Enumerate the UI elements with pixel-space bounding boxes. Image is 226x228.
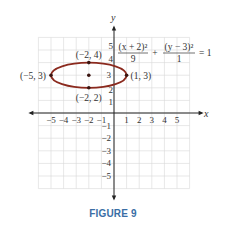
y-tick-label: −5 [101, 171, 111, 181]
x-tick-label: 2 [137, 115, 142, 125]
tick-labels: −5−4−3−2−11234554321−1−2−3−4−5 [46, 41, 180, 181]
y-tick-label: 3 [107, 70, 112, 80]
x-axis-arrow-left-icon [28, 111, 33, 115]
x-tick-label: −5 [46, 115, 56, 125]
y-axis-label: y [110, 12, 116, 23]
eq-plus: + [152, 48, 157, 58]
point-marker [87, 86, 91, 90]
eq-term1-denominator: 9 [131, 54, 136, 64]
y-tick-label: −1 [101, 121, 111, 131]
figure-caption: FIGURE 9 [0, 208, 226, 219]
eq-term2-denominator: 1 [177, 54, 182, 64]
point-label: (−2, 2) [76, 93, 102, 104]
point-marker [125, 73, 129, 77]
eq-equals: = 1 [199, 48, 212, 58]
y-tick-label: −4 [101, 158, 111, 168]
ellipse-equation: (x + 2)² 9 + (y − 3)² 1 = 1 [118, 42, 212, 64]
x-tick-label: 4 [162, 115, 167, 125]
y-axis-arrow-up-icon [112, 25, 116, 30]
point-label: (−5, 3) [20, 71, 46, 82]
point-marker [87, 61, 91, 65]
y-tick-label: −2 [101, 133, 111, 143]
point-marker [87, 73, 91, 77]
x-tick-label: 3 [150, 115, 155, 125]
x-tick-label: 1 [124, 115, 129, 125]
point-marker [49, 73, 53, 77]
y-tick-label: 4 [109, 54, 114, 64]
y-tick-label: −3 [101, 146, 111, 156]
x-tick-label: 5 [175, 115, 180, 125]
eq-term2-numerator: (y − 3)² [165, 42, 194, 53]
x-axis-arrow-right-icon [199, 111, 204, 115]
y-axis-arrow-down-icon [112, 196, 116, 201]
y-tick-label: 1 [109, 97, 114, 107]
point-label: (1, 3) [131, 71, 152, 82]
coordinate-plane: −5−4−3−2−11234554321−1−2−3−4−5 (−5, 3)(1… [0, 0, 226, 205]
x-axis-label: x [203, 108, 209, 119]
y-tick-label: 5 [109, 41, 114, 51]
x-tick-label: −2 [84, 115, 94, 125]
eq-term1-numerator: (x + 2)² [119, 42, 148, 53]
x-tick-label: −4 [59, 115, 69, 125]
point-label: (−2, 4) [76, 50, 102, 61]
x-tick-label: −3 [71, 115, 81, 125]
